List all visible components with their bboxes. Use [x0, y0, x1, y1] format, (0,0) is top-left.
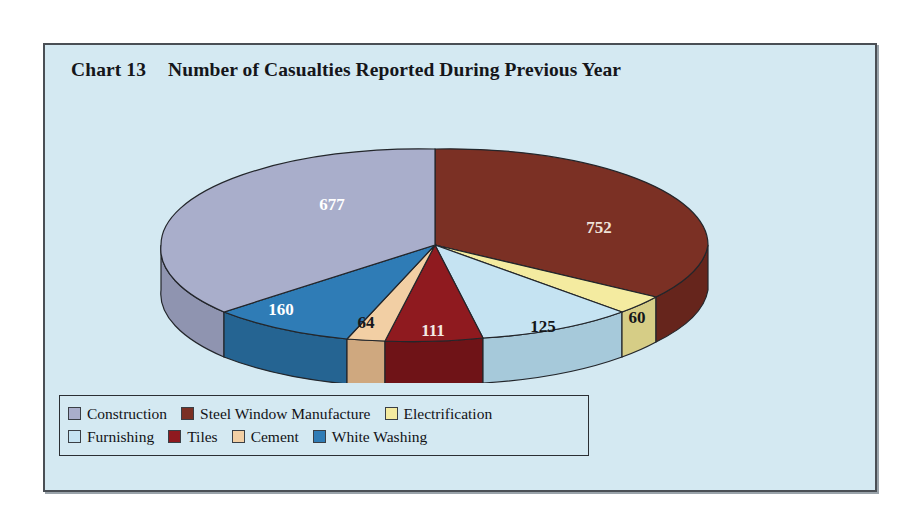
- legend-item-label: Construction: [87, 405, 167, 423]
- legend-swatch-icon: [313, 430, 326, 443]
- legend: Construction Steel Window Manufacture El…: [59, 395, 589, 456]
- legend-item-label: White Washing: [332, 428, 427, 446]
- pie-chart-svg: 677 752 160 64 111 125 60: [45, 93, 879, 383]
- legend-item-label: Tiles: [187, 428, 217, 446]
- legend-swatch-icon: [168, 430, 181, 443]
- legend-swatch-icon: [232, 430, 245, 443]
- legend-item-cement[interactable]: Cement: [232, 428, 299, 446]
- legend-swatch-icon: [385, 407, 398, 420]
- legend-item-label: Electrification: [404, 405, 493, 423]
- screenshot-root: Chart 13Number of Casualties Reported Du…: [0, 0, 923, 526]
- side-wall-tiles: [385, 338, 483, 383]
- legend-item-furnishing[interactable]: Furnishing: [68, 428, 154, 446]
- pie-label-furnishing: 125: [530, 317, 556, 336]
- legend-swatch-icon: [68, 430, 81, 443]
- legend-row: Furnishing Tiles Cement White Washing: [68, 425, 580, 448]
- legend-item-electrification[interactable]: Electrification: [385, 405, 493, 423]
- page-title: Chart 13Number of Casualties Reported Du…: [71, 59, 851, 81]
- chart-number-label: Chart 13: [71, 59, 146, 80]
- legend-row: Construction Steel Window Manufacture El…: [68, 402, 580, 425]
- legend-item-label: Cement: [251, 428, 299, 446]
- legend-item-white-washing[interactable]: White Washing: [313, 428, 427, 446]
- pie-label-white-washing: 160: [268, 300, 294, 319]
- legend-item-label: Furnishing: [87, 428, 154, 446]
- chart-card: Chart 13Number of Casualties Reported Du…: [43, 43, 877, 492]
- legend-item-label: Steel Window Manufacture: [200, 405, 370, 423]
- pie-label-tiles: 111: [421, 321, 445, 340]
- pie-label-cement: 64: [358, 313, 376, 332]
- legend-swatch-icon: [68, 407, 81, 420]
- pie-label-electrification: 60: [629, 308, 646, 327]
- pie-label-construction: 677: [319, 195, 345, 214]
- pie-label-steel-window-manufacture: 752: [586, 218, 612, 237]
- legend-item-construction[interactable]: Construction: [68, 405, 167, 423]
- side-wall-cement: [347, 339, 385, 383]
- chart-title-text: Number of Casualties Reported During Pre…: [168, 59, 621, 80]
- pie-chart-plot: 677 752 160 64 111 125 60: [45, 93, 879, 383]
- legend-item-tiles[interactable]: Tiles: [168, 428, 217, 446]
- legend-item-steel-window-manufacture[interactable]: Steel Window Manufacture: [181, 405, 370, 423]
- legend-swatch-icon: [181, 407, 194, 420]
